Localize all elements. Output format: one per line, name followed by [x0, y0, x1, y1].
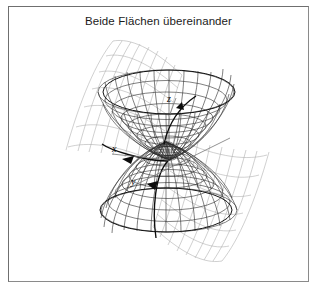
axis-label-z: z	[167, 93, 171, 104]
figure-root: Beide Flächen übereinander	[0, 0, 317, 293]
axis-label-y: y	[131, 176, 135, 187]
axis-label-x: x	[112, 143, 116, 154]
surface-plot-canvas	[18, 14, 317, 288]
plot-frame: Beide Flächen übereinander	[8, 6, 309, 282]
arrowhead-x	[122, 156, 134, 164]
surface-lower-funnel	[101, 142, 237, 233]
arrowhead-z	[176, 102, 184, 110]
